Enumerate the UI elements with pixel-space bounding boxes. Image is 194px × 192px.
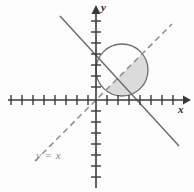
x-axis-label: x xyxy=(178,104,184,115)
line-equation-label: y = x xyxy=(36,150,61,161)
graph-figure: y x y = x xyxy=(0,0,194,192)
line-y-equals-x xyxy=(35,24,172,161)
y-axis-label: y xyxy=(101,2,106,13)
line-y-equals-negative-x xyxy=(60,16,179,146)
x-axis-arrow-icon xyxy=(183,96,191,105)
y-axis-arrow-icon xyxy=(92,5,101,14)
coordinate-plane-svg xyxy=(0,0,194,192)
